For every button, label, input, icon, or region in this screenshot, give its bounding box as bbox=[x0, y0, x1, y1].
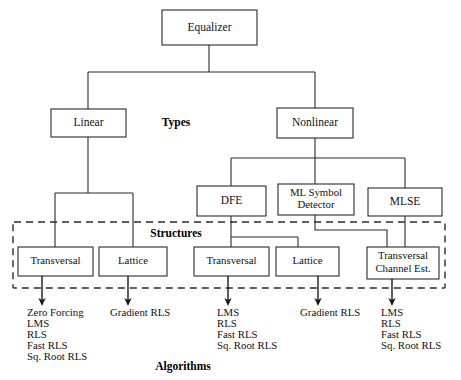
algorithm-item: Sq. Root RLS bbox=[381, 339, 441, 351]
node-ml-symbol-detector-label-line2: Detector bbox=[297, 198, 335, 210]
algorithm-arrows bbox=[42, 276, 392, 302]
node-structure-transversal-dfe-label: Transversal bbox=[207, 254, 257, 266]
node-ml-symbol-detector: ML Symbol Detector bbox=[278, 184, 354, 215]
algorithm-column-4: Gradient RLS bbox=[300, 306, 360, 318]
node-structure-transversal-linear-label: Transversal bbox=[31, 254, 81, 266]
node-dfe-label: DFE bbox=[221, 194, 243, 206]
algorithm-item: Gradient RLS bbox=[300, 306, 360, 318]
algorithm-column-3: LMS RLS Fast RLS Sq. Root RLS bbox=[217, 306, 277, 351]
node-structure-transversal-channel-est: Transversal Channel Est. bbox=[367, 247, 439, 279]
node-mlse: MLSE bbox=[368, 188, 442, 216]
equalizer-classification-diagram: Equalizer Linear Nonlinear Types DFE ML … bbox=[0, 0, 461, 380]
node-nonlinear: Nonlinear bbox=[277, 108, 353, 138]
node-structure-lattice-linear-label: Lattice bbox=[118, 254, 148, 266]
diagram-canvas: Equalizer Linear Nonlinear Types DFE ML … bbox=[0, 0, 461, 380]
node-mlse-label: MLSE bbox=[390, 195, 421, 207]
node-structure-lattice-linear: Lattice bbox=[99, 247, 167, 276]
structures-section-label: Structures bbox=[150, 227, 202, 239]
node-equalizer-label: Equalizer bbox=[187, 21, 231, 34]
node-structure-transversal-linear: Transversal bbox=[18, 247, 93, 276]
algorithm-column-5: LMS RLS Fast RLS Sq. Root RLS bbox=[381, 306, 441, 351]
algorithm-item: Sq. Root RLS bbox=[27, 350, 87, 362]
node-nonlinear-label: Nonlinear bbox=[292, 116, 338, 128]
node-structure-channel-est-label-line2: Channel Est. bbox=[375, 262, 430, 274]
node-linear: Linear bbox=[51, 109, 126, 137]
algorithm-item: Gradient RLS bbox=[110, 306, 170, 318]
node-ml-symbol-detector-label-line1: ML Symbol bbox=[290, 186, 342, 198]
node-structure-channel-est-label-line1: Transversal bbox=[378, 249, 428, 261]
node-linear-label: Linear bbox=[73, 116, 103, 128]
node-structure-transversal-dfe: Transversal bbox=[194, 247, 269, 276]
connector-lines bbox=[55, 45, 405, 247]
algorithm-column-1: Zero Forcing LMS RLS Fast RLS Sq. Root R… bbox=[27, 306, 87, 362]
algorithm-column-2: Gradient RLS bbox=[110, 306, 170, 318]
node-structure-lattice-dfe: Lattice bbox=[276, 247, 339, 276]
link-ml-detector-to-channel-est bbox=[315, 214, 387, 247]
algorithms-section-label: Algorithms bbox=[155, 360, 211, 373]
types-section-label: Types bbox=[162, 116, 191, 129]
node-equalizer: Equalizer bbox=[162, 10, 257, 45]
node-dfe: DFE bbox=[197, 186, 266, 216]
node-structure-lattice-dfe-label: Lattice bbox=[293, 254, 323, 266]
algorithm-item: Sq. Root RLS bbox=[217, 339, 277, 351]
